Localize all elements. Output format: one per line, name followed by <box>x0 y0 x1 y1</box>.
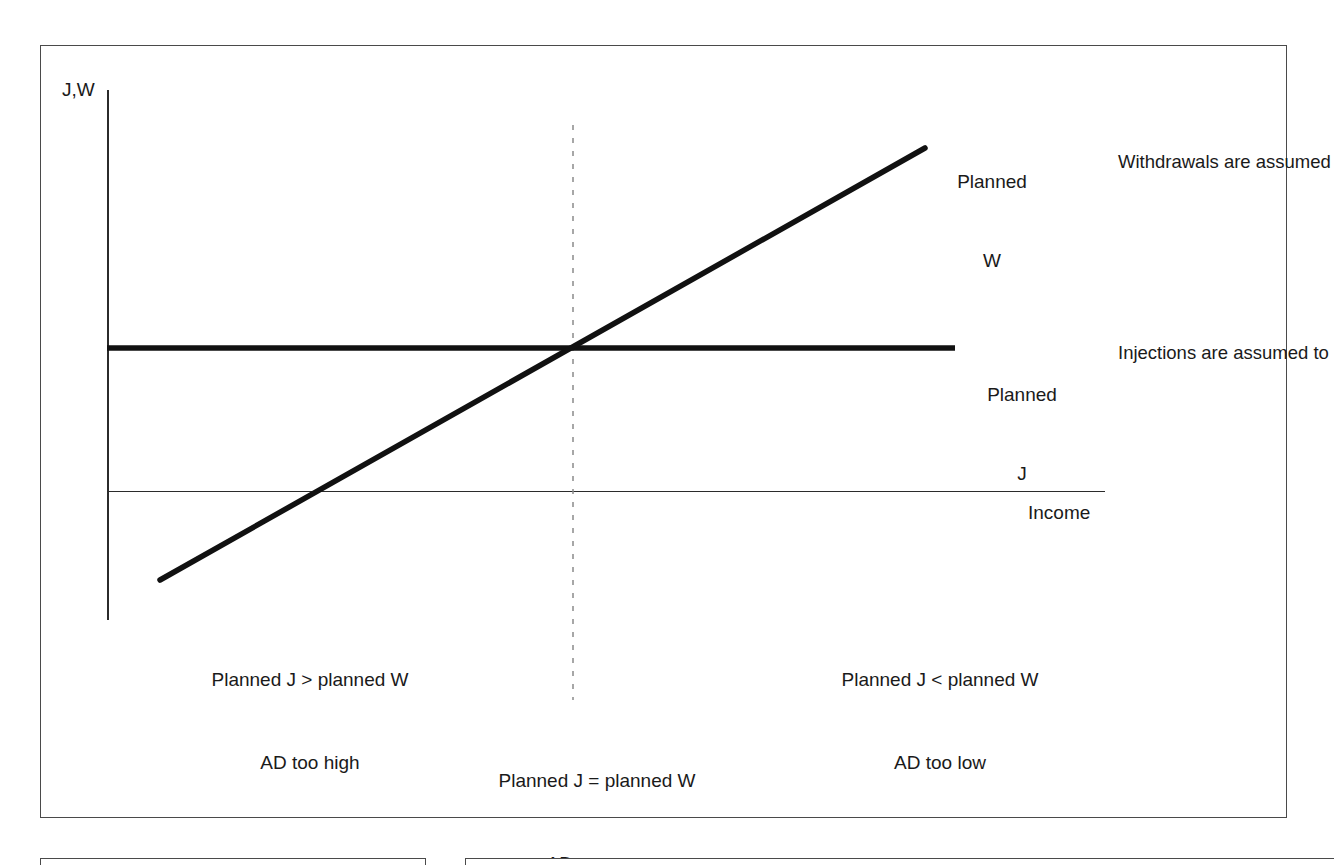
diagram-page: J,W Income Planned W Planned J Withdrawa… <box>0 0 1334 865</box>
zone-note-left: Planned J > planned W AD too high <box>160 611 460 831</box>
y-axis-label: J,W <box>62 77 95 104</box>
y-axis-line <box>107 90 109 620</box>
zone-note-left-line2: AD too high <box>160 749 460 777</box>
planned-w-label-line2: W <box>938 248 1046 274</box>
x-axis-line <box>107 491 1105 492</box>
planned-j-label-line1: Planned <box>968 382 1076 408</box>
planned-w-label: Planned W <box>938 117 1046 327</box>
zone-note-right-line1: Planned J < planned W <box>790 666 1090 694</box>
bottom-box-left <box>40 858 426 865</box>
zone-note-right-line2: AD too low <box>790 749 1090 777</box>
injections-side-note: Injections are assumed to be autonomous … <box>1118 338 1328 368</box>
bottom-box-right <box>465 858 1334 865</box>
planned-j-label-line2: J <box>968 461 1076 487</box>
planned-w-label-line1: Planned <box>938 169 1046 195</box>
zone-note-left-line1: Planned J > planned W <box>160 666 460 694</box>
zone-note-mid-line1: Planned J = planned W <box>447 767 747 795</box>
planned-j-label: Planned J <box>968 330 1076 540</box>
zone-note-right: Planned J < planned W AD too low <box>790 611 1090 831</box>
withdrawals-side-note: Withdrawals are assumed to be a function… <box>1118 147 1328 177</box>
zone-note-equilibrium: Planned J = planned W AD = output equili… <box>447 712 747 865</box>
